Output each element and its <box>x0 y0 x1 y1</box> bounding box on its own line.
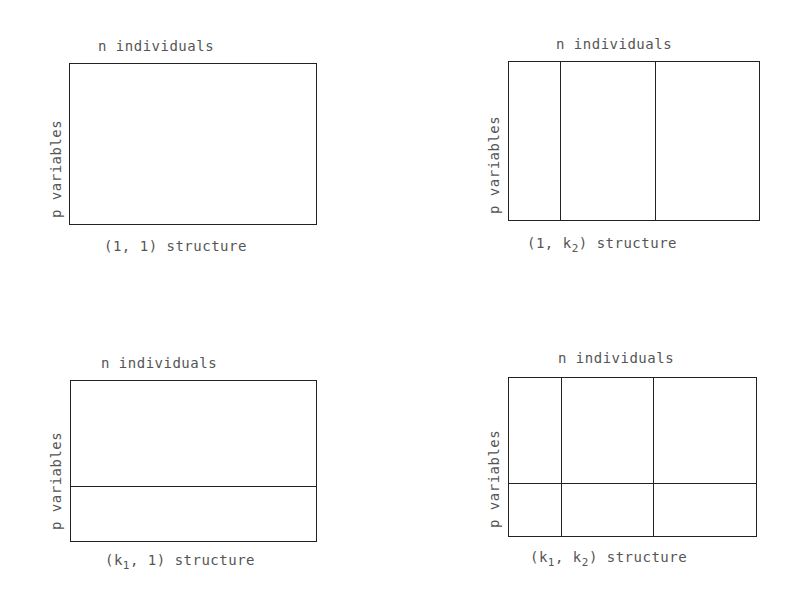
row-divider <box>70 486 317 487</box>
side-label: p variables <box>48 432 64 530</box>
side-label: p variables <box>486 116 502 214</box>
caption-text: (k <box>105 552 123 568</box>
side-label: p variables <box>48 120 64 218</box>
caption-text: , k <box>555 549 582 565</box>
top-label: n individuals <box>98 38 214 54</box>
column-divider <box>560 61 561 221</box>
top-label: n individuals <box>556 36 672 52</box>
data-matrix <box>508 61 760 221</box>
caption-subscript: 1 <box>123 559 130 572</box>
caption-text: (k <box>530 549 548 565</box>
column-divider <box>653 377 654 537</box>
column-divider <box>561 377 562 537</box>
caption-subscript: 1 <box>548 556 555 569</box>
caption: (1, k2) structure <box>527 235 677 255</box>
top-label: n individuals <box>558 350 674 366</box>
caption-text: ) structure <box>579 235 677 251</box>
caption-subscript: 2 <box>582 556 589 569</box>
caption: (k1, k2) structure <box>530 549 687 569</box>
caption-text: (1, k <box>527 235 572 251</box>
data-matrix <box>70 380 317 542</box>
caption-text: , 1) structure <box>130 552 255 568</box>
caption-subscript: 2 <box>572 242 579 255</box>
data-matrix <box>69 63 317 225</box>
side-label: p variables <box>486 430 502 528</box>
row-divider <box>508 483 757 484</box>
caption-text: ) structure <box>589 549 687 565</box>
top-label: n individuals <box>101 355 217 371</box>
column-divider <box>655 61 656 221</box>
caption: (k1, 1) structure <box>105 552 255 572</box>
data-matrix <box>508 377 757 537</box>
caption: (1, 1) structure <box>104 238 247 254</box>
